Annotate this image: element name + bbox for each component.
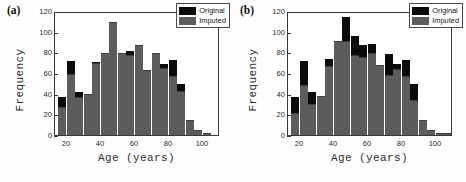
histogram-bar <box>194 131 202 135</box>
x-tick-label: 20 <box>288 139 310 148</box>
x-tick-label: 60 <box>123 139 145 148</box>
panel-b-bars <box>288 13 451 135</box>
legend-label-original: Original <box>432 6 457 15</box>
bar-segment-imputed <box>203 133 211 135</box>
bar-segment-imputed <box>126 55 134 135</box>
legend-swatch-imputed <box>179 17 196 25</box>
y-tick-mark <box>287 53 291 54</box>
histogram-bar <box>419 121 427 135</box>
legend-swatch-imputed <box>412 17 429 25</box>
bar-segment-imputed <box>300 85 308 135</box>
bar-segment-imputed <box>342 41 350 135</box>
panel-a-plot-area <box>54 12 219 136</box>
x-tick-label: 100 <box>424 139 446 148</box>
histogram-bar <box>58 97 66 135</box>
bar-segment-imputed <box>75 97 83 135</box>
bar-segment-imputed <box>135 45 143 135</box>
histogram-bar <box>351 36 359 135</box>
bar-segment-imputed <box>444 133 452 135</box>
histogram-bar <box>169 60 177 135</box>
bar-segment-imputed <box>402 76 410 135</box>
histogram-bar <box>186 121 194 135</box>
histogram-bar <box>342 17 350 135</box>
bar-segment-imputed <box>101 53 109 135</box>
bar-segment-imputed <box>325 66 333 135</box>
bar-segment-imputed <box>410 100 418 135</box>
legend-swatch-original <box>412 7 429 15</box>
panel-b-plot-area <box>287 12 452 136</box>
histogram-bar <box>92 62 100 135</box>
y-tick-mark <box>287 33 291 34</box>
bar-segment-imputed <box>143 70 151 135</box>
x-tick-label: 40 <box>322 139 344 148</box>
histogram-bar <box>75 92 83 135</box>
histogram-bar <box>317 97 325 135</box>
x-tick-label: 60 <box>356 139 378 148</box>
legend-item-original: Original <box>412 6 459 15</box>
panel-a-xlabel: Age (years) <box>54 152 219 164</box>
bar-segment-imputed <box>186 120 194 135</box>
panel-b: (b) 020406080100120 20406080100 Original… <box>233 0 466 182</box>
y-tick-mark <box>54 53 58 54</box>
histogram-bar <box>203 134 211 135</box>
x-tick-label: 20 <box>55 139 77 148</box>
legend-label-imputed: Imputed <box>199 16 226 25</box>
y-tick-mark <box>287 12 291 13</box>
y-tick-mark <box>287 74 291 75</box>
legend-item-imputed: Imputed <box>412 16 459 25</box>
bar-segment-imputed <box>359 57 367 136</box>
legend-label-original: Original <box>199 6 224 15</box>
bar-segment-imputed <box>393 69 401 135</box>
histogram-bar <box>308 92 316 135</box>
legend-item-original: Original <box>179 6 226 15</box>
bar-segment-imputed <box>436 133 444 135</box>
bar-segment-imputed <box>317 96 325 135</box>
histogram-bar <box>368 44 376 135</box>
histogram-bar <box>325 59 333 135</box>
panel-a-ylabel: Frequency <box>14 20 26 140</box>
histogram-bar <box>436 134 444 135</box>
bar-segment-imputed <box>169 76 177 135</box>
x-tick-label: 40 <box>89 139 111 148</box>
panel-a-bars <box>55 13 218 135</box>
histogram-bar <box>427 131 435 135</box>
legend-label-imputed: Imputed <box>432 16 459 25</box>
histogram-bar <box>143 71 151 135</box>
histogram-bar <box>152 54 160 135</box>
bar-segment-imputed <box>67 74 75 135</box>
histogram-bar <box>126 51 134 135</box>
histogram-bar <box>393 64 401 135</box>
bar-segment-imputed <box>308 104 316 135</box>
figure-root: (a) 020406080100120 20406080100 Original… <box>0 0 466 182</box>
bar-segment-imputed <box>84 94 92 135</box>
bar-segment-imputed <box>368 53 376 135</box>
histogram-bar <box>444 134 452 135</box>
x-tick-label: 80 <box>157 139 179 148</box>
bar-segment-imputed <box>177 91 185 135</box>
bar-segment-imputed <box>291 113 299 135</box>
y-tick-mark <box>287 95 291 96</box>
y-tick-mark <box>54 95 58 96</box>
y-tick-mark <box>54 33 58 34</box>
panel-a: (a) 020406080100120 20406080100 Original… <box>0 0 233 182</box>
histogram-bar <box>385 54 393 135</box>
panel-a-legend: OriginalImputed <box>176 3 230 28</box>
bar-segment-imputed <box>92 63 100 135</box>
bar-segment-imputed <box>118 53 126 135</box>
panel-b-xlabel: Age (years) <box>287 152 452 164</box>
legend-swatch-original <box>179 7 196 15</box>
bar-segment-imputed <box>194 130 202 135</box>
bar-segment-imputed <box>427 130 435 135</box>
x-tick-label: 100 <box>191 139 213 148</box>
bar-segment-imputed <box>334 41 342 135</box>
y-tick-mark <box>287 115 291 116</box>
histogram-bar <box>291 97 299 135</box>
histogram-bar <box>177 84 185 135</box>
bar-segment-imputed <box>58 107 66 135</box>
histogram-bar <box>359 45 367 135</box>
histogram-bar <box>109 22 117 135</box>
histogram-bar <box>300 61 308 135</box>
histogram-bar <box>402 60 410 135</box>
panel-b-legend: OriginalImputed <box>409 3 463 28</box>
histogram-bar <box>376 66 384 135</box>
